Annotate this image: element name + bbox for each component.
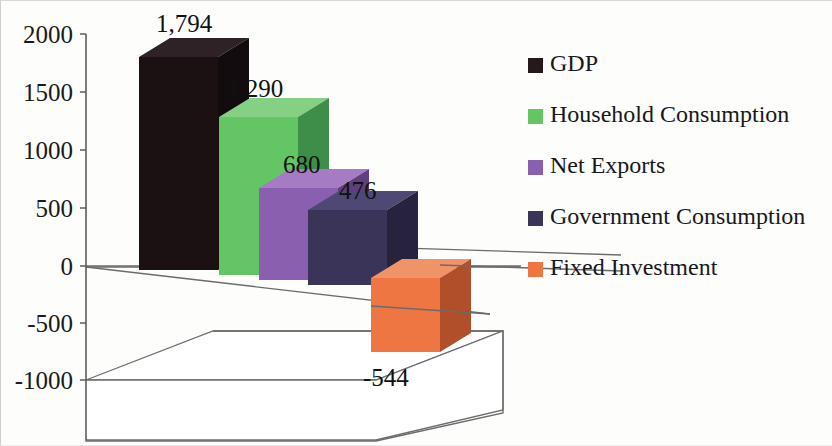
legend-label-net-exports: Net Exports: [550, 152, 665, 178]
bar-government-consumption-front-face: [308, 210, 387, 285]
y-tick-label-1500: 1500: [23, 79, 73, 106]
data-label-net-exports: 680: [283, 151, 321, 178]
chart-figure: 2000 1500 1000 500 0 -500 -1000: [0, 0, 832, 446]
data-label-fixed-investment: -544: [363, 364, 409, 391]
legend-item-net-exports[interactable]: Net Exports: [528, 152, 665, 178]
bar-fixed-investment-front-face: [371, 278, 440, 352]
legend-label-gdp: GDP: [550, 50, 598, 76]
chart-canvas: 2000 1500 1000 500 0 -500 -1000: [1, 1, 832, 446]
legend-swatch-gdp: [528, 58, 543, 73]
y-tick-label-2000: 2000: [23, 21, 73, 48]
legend-label-fixed-investment: Fixed Investment: [550, 254, 718, 280]
bar-gdp-front-face: [139, 57, 218, 270]
legend-swatch-household-consumption: [528, 109, 543, 124]
y-tick-label-0: 0: [61, 253, 74, 280]
data-label-household-consumption: 1,290: [227, 75, 283, 102]
data-label-government-consumption: 476: [339, 177, 377, 204]
legend-swatch-net-exports: [528, 160, 543, 175]
legend-item-fixed-investment[interactable]: Fixed Investment: [528, 254, 718, 280]
legend-swatch-government-consumption: [528, 211, 543, 226]
legend-item-gdp[interactable]: GDP: [528, 50, 598, 76]
legend-item-household-consumption[interactable]: Household Consumption: [528, 101, 789, 127]
y-tick-label-minus1000: -1000: [15, 367, 73, 394]
y-tick-label-minus500: -500: [27, 310, 73, 337]
legend-label-household-consumption: Household Consumption: [550, 101, 789, 127]
legend-label-government-consumption: Government Consumption: [550, 203, 805, 229]
legend-item-government-consumption[interactable]: Government Consumption: [528, 203, 805, 229]
bar-fixed-investment[interactable]: [371, 259, 471, 352]
y-tick-label-1000: 1000: [23, 137, 73, 164]
y-tick-label-500: 500: [36, 195, 74, 222]
data-label-gdp: 1,794: [156, 10, 213, 37]
legend-swatch-fixed-investment: [528, 262, 543, 277]
legend: GDP Household Consumption Net Exports Go…: [528, 50, 805, 280]
